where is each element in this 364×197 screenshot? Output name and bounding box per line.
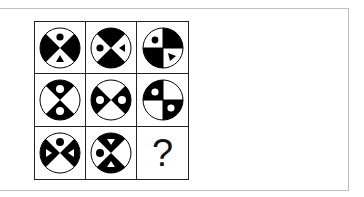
cell-r1c3 — [137, 22, 188, 74]
question-mark: ? — [152, 134, 173, 172]
cell-r3c1 — [35, 127, 86, 179]
x-sector-circle-icon — [39, 79, 81, 121]
quadrant-circle-icon — [142, 27, 184, 69]
cell-r3c2 — [86, 127, 137, 179]
puzzle-grid: ? — [34, 21, 189, 180]
x-sector-circle-icon — [90, 132, 132, 174]
x-sector-circle-icon — [39, 27, 81, 69]
cell-r1c1 — [35, 22, 86, 74]
cell-r1c2 — [86, 22, 137, 74]
x-sector-circle-icon — [90, 27, 132, 69]
cell-r2c3 — [137, 74, 188, 126]
cell-r2c1 — [35, 74, 86, 126]
cell-r3c3-answer: ? — [137, 127, 188, 179]
quadrant-circle-icon — [142, 79, 184, 121]
cell-r2c2 — [86, 74, 137, 126]
x-sector-circle-icon — [90, 79, 132, 121]
x-sector-circle-icon — [39, 132, 81, 174]
